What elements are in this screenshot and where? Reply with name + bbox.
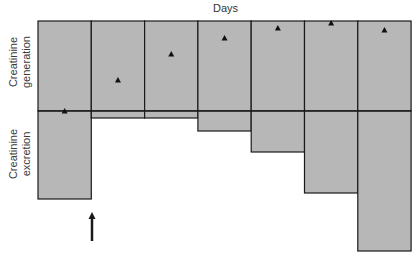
excretion-box xyxy=(198,111,251,131)
excretion-box xyxy=(358,111,411,251)
generation-box xyxy=(198,21,251,111)
excretion-box xyxy=(145,111,198,118)
generation-box xyxy=(251,21,304,111)
excretion-box xyxy=(91,111,144,118)
generation-box xyxy=(145,21,198,111)
chart-plot xyxy=(0,0,417,256)
generation-box xyxy=(305,21,358,111)
excretion-box xyxy=(38,111,91,199)
generation-box xyxy=(38,21,91,111)
excretion-box xyxy=(305,111,358,193)
generation-box xyxy=(91,21,144,111)
excretion-box xyxy=(251,111,304,152)
generation-box xyxy=(358,21,411,111)
arrow-up-icon xyxy=(89,212,96,219)
